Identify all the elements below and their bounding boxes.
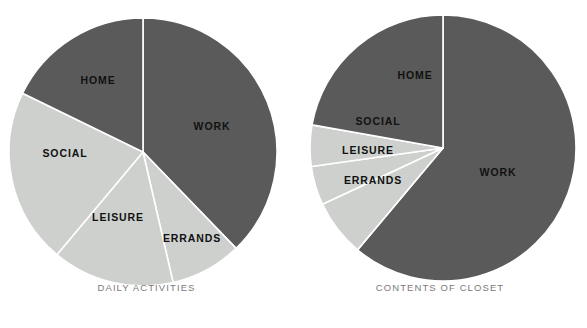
pie-slice-label-work: WORK [194, 121, 231, 132]
pie-slice-label-home: HOME [80, 75, 115, 86]
pie-slice-label-work: WORK [480, 167, 517, 178]
chart-caption-contents-of-closet: CONTENTS OF CLOSET [293, 282, 587, 293]
pie-slice-label-leisure: LEISURE [342, 145, 394, 156]
pie-chart-figure: WORKERRANDSLEISURESOCIALHOME DAILY ACTIV… [0, 0, 587, 328]
pie-chart-contents-of-closet [293, 0, 587, 300]
chart-caption-daily-activities: DAILY ACTIVITIES [0, 282, 293, 293]
pie-slice-label-leisure: LEISURE [92, 212, 144, 223]
pie-slice-label-social: SOCIAL [355, 116, 400, 127]
chart-panel-daily-activities: WORKERRANDSLEISURESOCIALHOME DAILY ACTIV… [0, 0, 293, 328]
pie-slice-home[interactable] [312, 15, 443, 148]
pie-slice-label-home: HOME [397, 70, 432, 81]
chart-panel-contents-of-closet: WORKERRANDSLEISURESOCIALHOME CONTENTS OF… [293, 0, 587, 328]
pie-slice-label-errands: ERRANDS [344, 175, 402, 186]
pie-slice-label-social: SOCIAL [42, 148, 87, 159]
pie-slice-label-errands: ERRANDS [163, 233, 221, 244]
